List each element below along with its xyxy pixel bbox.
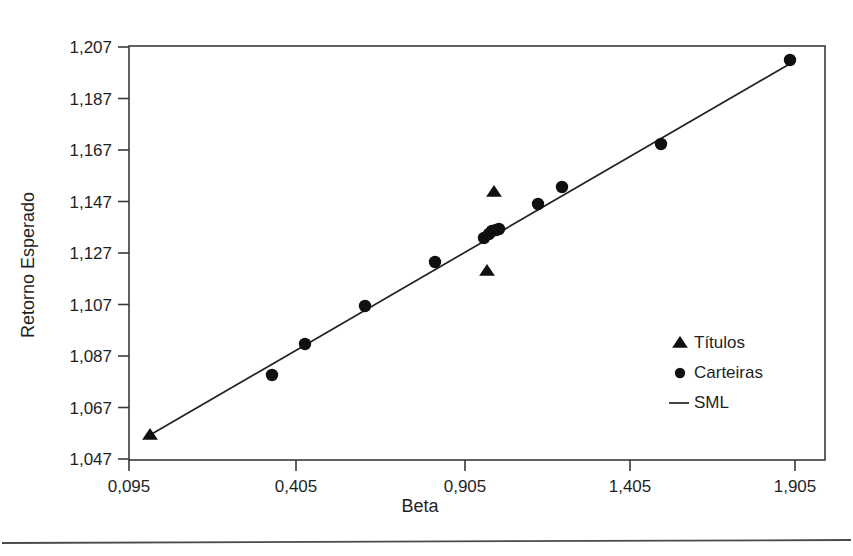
data-point-carteiras <box>784 54 796 66</box>
legend-label: SML <box>694 393 729 412</box>
y-tick-label: 1,127 <box>69 244 112 263</box>
bottom-divider <box>2 540 851 543</box>
y-tick-label: 1,067 <box>69 399 112 418</box>
data-point-carteiras <box>532 198 544 210</box>
chart-legend: TítulosCarteirasSML <box>669 333 763 412</box>
data-point-carteiras <box>299 338 311 350</box>
y-tick-label: 1,107 <box>69 296 112 315</box>
y-axis: 1,2071,1871,1671,1471,1271,1071,0871,067… <box>69 38 129 469</box>
data-point-titulos <box>142 428 158 440</box>
y-axis-title: Retorno Esperado <box>18 192 38 338</box>
data-point-carteiras <box>556 181 568 193</box>
data-point-carteiras <box>429 256 441 268</box>
legend-label: Carteiras <box>694 363 763 382</box>
x-axis: 0,0950,4050,9051,4051,905 <box>108 460 817 496</box>
x-tick-label: 1,905 <box>774 477 817 496</box>
y-tick-label: 1,187 <box>69 90 112 109</box>
scatter-plot-svg: 1,2071,1871,1671,1471,1271,1071,0871,067… <box>0 0 853 556</box>
data-point-carteiras <box>266 369 278 381</box>
y-tick-label: 1,047 <box>69 450 112 469</box>
legend-label: Títulos <box>694 333 745 352</box>
y-tick-label: 1,207 <box>69 38 112 57</box>
data-point-titulos <box>479 264 495 276</box>
x-axis-title: Beta <box>401 496 439 516</box>
x-tick-label: 0,405 <box>275 477 318 496</box>
y-tick-label: 1,087 <box>69 347 112 366</box>
legend-circle-icon <box>675 368 685 378</box>
data-point-carteiras <box>493 223 505 235</box>
y-tick-label: 1,147 <box>69 193 112 212</box>
x-tick-label: 0,095 <box>108 477 151 496</box>
data-point-carteiras <box>655 138 667 150</box>
chart-figure: 1,2071,1871,1671,1471,1271,1071,0871,067… <box>0 0 853 556</box>
y-tick-label: 1,167 <box>69 141 112 160</box>
legend-triangle-icon <box>672 336 688 348</box>
x-tick-label: 1,405 <box>609 477 652 496</box>
x-tick-label: 0,905 <box>444 477 487 496</box>
data-point-titulos <box>486 185 502 197</box>
data-point-carteiras <box>359 300 371 312</box>
